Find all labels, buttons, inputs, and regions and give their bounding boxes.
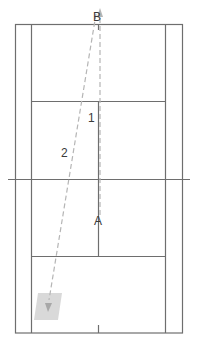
path-1-label: 1 — [88, 112, 95, 124]
point-b-label: B — [93, 11, 101, 23]
path-2-label: 2 — [61, 147, 68, 159]
court-lines — [8, 25, 190, 334]
court-diagram — [0, 0, 199, 347]
point-a-label: A — [94, 215, 102, 227]
